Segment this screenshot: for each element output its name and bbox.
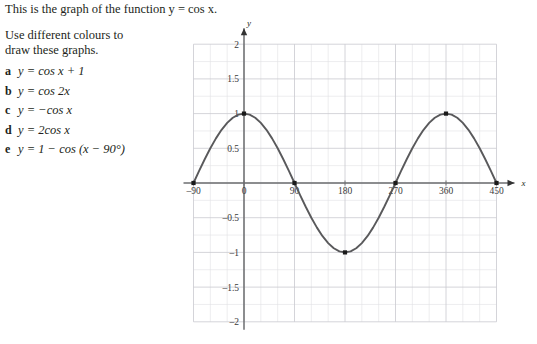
list-item-equation: y = cos x + 1 (18, 64, 85, 78)
tick-label: 0 (242, 186, 247, 196)
tick-label: –90 (185, 186, 201, 196)
data-point-marker (393, 181, 397, 185)
data-point-marker (191, 181, 195, 185)
tick-label: –1 (229, 248, 240, 258)
list-item-marker: a (5, 64, 18, 78)
list-item: e y = 1 − cos (x − 90°) (5, 142, 190, 156)
list-item-equation: y = 2cos x (18, 123, 70, 137)
list-item-marker: b (5, 84, 18, 98)
list-item: b y = cos 2x (5, 84, 190, 98)
cosine-graph: –9009018027036045021.510.5–0.5–1–1.5–2 x… (180, 12, 537, 344)
tick-label: 2 (234, 40, 239, 50)
instruction-text: Use different colours to draw these grap… (5, 28, 190, 57)
instruction-line-1: Use different colours to (5, 28, 123, 42)
data-point-marker (343, 250, 347, 254)
list-item-marker: d (5, 123, 18, 137)
question-text-column: This is the graph of the function y = co… (5, 2, 190, 162)
tick-label: –1.5 (221, 283, 239, 293)
list-item: d y = 2cos x (5, 123, 190, 137)
tick-label: 180 (338, 186, 353, 196)
data-point-marker (494, 181, 498, 185)
instruction-line-2: draw these graphs. (5, 43, 98, 57)
data-point-marker (444, 112, 448, 116)
graph-svg: –9009018027036045021.510.5–0.5–1–1.5–2 x… (180, 12, 537, 344)
tick-label: –2 (229, 317, 240, 327)
list-item: c y = −cos x (5, 103, 190, 117)
y-axis-label: y (246, 18, 251, 28)
tick-label: 450 (489, 186, 504, 196)
list-item: a y = cos x + 1 (5, 64, 190, 78)
list-item-equation: y = cos 2x (18, 84, 70, 98)
tick-label: 0.5 (227, 144, 239, 154)
axis-arrow-icon (508, 180, 515, 186)
tick-label: 1.5 (227, 74, 239, 84)
data-point-marker (242, 112, 246, 116)
list-item-marker: c (5, 103, 18, 117)
x-axis-label: x (521, 178, 526, 188)
equation-list: a y = cos x + 1 b y = cos 2x c y = −cos … (5, 64, 190, 156)
tick-label: 360 (439, 186, 454, 196)
tick-label: –0.5 (221, 213, 239, 223)
intro-text: This is the graph of the function y = co… (5, 2, 190, 17)
axis-arrow-icon (241, 28, 247, 35)
list-item-equation: y = 1 − cos (x − 90°) (18, 142, 125, 156)
data-point-marker (292, 181, 296, 185)
list-item-equation: y = −cos x (18, 103, 72, 117)
list-item-marker: e (5, 142, 18, 156)
